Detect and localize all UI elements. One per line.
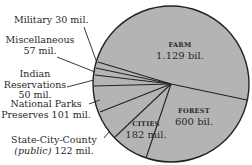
label-state-value: 122 mil. [51,145,93,156]
label-parks: National Parks Preserves 101 mil. [1,99,91,120]
label-farm-title: FARM [156,40,204,51]
label-farm-value: 1.129 bil. [156,51,204,62]
label-parks-line1: National Parks [1,99,91,110]
leader-military [84,27,97,63]
label-misc: Miscellaneous 57 mil. [6,35,75,56]
label-forest-title: FOREST [175,106,213,117]
leader-state [104,132,109,138]
label-state-public: (public) [14,145,51,156]
label-forest: FOREST 600 bil. [175,106,213,127]
label-state-line2: (public) 122 mil. [11,146,97,157]
label-cities-title: CITIES [125,119,166,130]
label-indian: Indian Reservations 50 mil. [4,69,66,101]
label-state: State-City-County (public) 122 mil. [11,135,97,156]
label-cities: CITIES 182 mil. [125,119,166,140]
leader-indian [67,80,94,87]
label-farm: FARM 1.129 bil. [156,40,204,61]
label-cities-value: 182 mil. [125,130,166,141]
label-misc-line2: 57 mil. [6,46,75,57]
label-forest-value: 600 bil. [175,117,213,128]
label-military: Military 30 mil. [14,15,88,26]
label-military-text: Military 30 mil. [14,15,88,26]
label-misc-line1: Miscellaneous [6,35,75,46]
label-indian-line1: Indian [4,69,66,80]
label-parks-line2: Preserves 101 mil. [1,110,91,121]
